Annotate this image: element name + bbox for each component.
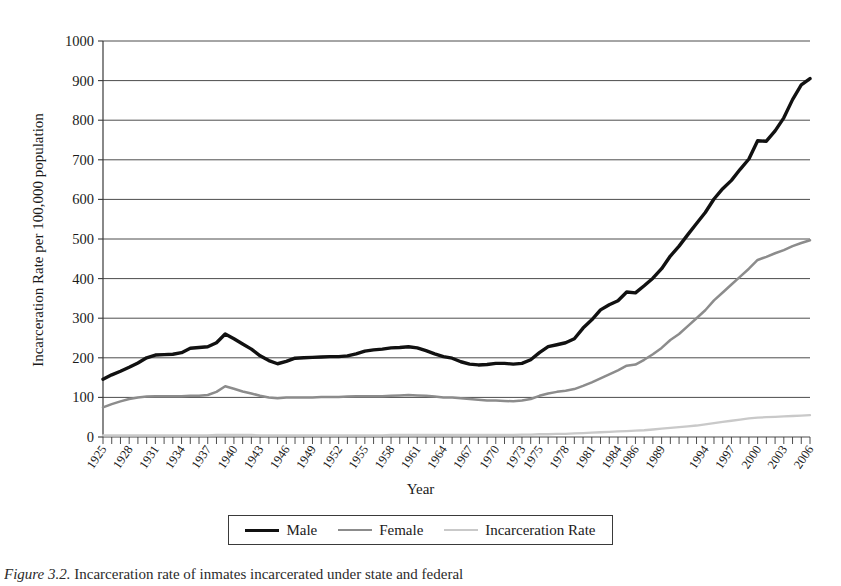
legend-swatch-female-icon bbox=[338, 529, 372, 531]
series-line-female bbox=[103, 240, 810, 407]
legend-item-female: Female bbox=[338, 522, 423, 539]
x-tick-label: 1940 bbox=[215, 443, 241, 472]
x-tick-label: 1931 bbox=[136, 443, 162, 472]
figure-caption-text: Incarceration rate of inmates incarcerat… bbox=[71, 566, 464, 582]
x-tick-label: 1952 bbox=[320, 443, 346, 472]
x-tick-label: 1981 bbox=[573, 443, 599, 472]
figure-caption-label: Figure 3.2. bbox=[4, 566, 71, 582]
x-tick-label: 1946 bbox=[267, 443, 293, 472]
x-tick-label: 1943 bbox=[241, 443, 267, 472]
legend-label-incarceration-rate: Incarceration Rate bbox=[485, 522, 595, 539]
legend-item-male: Male bbox=[245, 522, 317, 539]
x-tick-label: 1989 bbox=[643, 443, 669, 472]
x-tick-label: 2000 bbox=[739, 443, 765, 472]
legend-swatch-incarceration-rate-icon bbox=[444, 529, 478, 531]
x-tick-label: 1949 bbox=[293, 443, 319, 472]
x-tick-label: 1955 bbox=[346, 443, 372, 472]
series-line-male bbox=[103, 79, 810, 380]
series-line-incarceration-rate bbox=[103, 415, 810, 435]
y-tick-label: 400 bbox=[72, 271, 94, 287]
x-tick-label: 1964 bbox=[424, 442, 450, 471]
x-tick-label: 1994 bbox=[686, 442, 712, 471]
y-axis-label-wrap: Incarceration Rate per 100,000 populatio… bbox=[26, 40, 50, 440]
figure-root: 0100200300400500600700800900100019251928… bbox=[0, 0, 841, 586]
x-tick-label: 2006 bbox=[791, 443, 817, 472]
chart-area: 0100200300400500600700800900100019251928… bbox=[0, 0, 841, 500]
y-tick-label: 500 bbox=[72, 231, 94, 247]
x-tick-label: 1986 bbox=[616, 443, 642, 472]
x-tick-label: 1997 bbox=[712, 443, 738, 472]
y-tick-label: 100 bbox=[72, 389, 94, 405]
x-tick-label: 1937 bbox=[189, 443, 215, 472]
y-tick-label: 800 bbox=[72, 112, 94, 128]
x-tick-label: 1925 bbox=[84, 443, 110, 472]
x-tick-label: 1978 bbox=[547, 443, 573, 472]
legend-item-incarceration-rate: Incarceration Rate bbox=[444, 522, 595, 539]
legend-label-male: Male bbox=[286, 522, 317, 539]
y-tick-label: 1000 bbox=[65, 33, 94, 49]
legend-swatch-male-icon bbox=[245, 529, 279, 532]
x-tick-label: 1958 bbox=[372, 443, 398, 472]
x-tick-label: 1970 bbox=[477, 443, 503, 472]
chart-legend: Male Female Incarceration Rate bbox=[228, 515, 613, 545]
y-axis-label: Incarceration Rate per 100,000 populatio… bbox=[30, 113, 47, 367]
y-tick-label: 900 bbox=[72, 73, 94, 89]
y-tick-label: 600 bbox=[72, 191, 94, 207]
x-tick-label: 1961 bbox=[398, 443, 424, 472]
y-tick-label: 200 bbox=[72, 350, 94, 366]
y-tick-label: 300 bbox=[72, 310, 94, 326]
x-tick-label: 1928 bbox=[110, 443, 136, 472]
y-tick-label: 700 bbox=[72, 152, 94, 168]
x-tick-label: 2003 bbox=[765, 443, 791, 472]
x-tick-label: 1934 bbox=[162, 442, 188, 471]
y-tick-label: 0 bbox=[87, 429, 94, 445]
line-chart: 0100200300400500600700800900100019251928… bbox=[0, 0, 841, 500]
x-axis-label: Year bbox=[0, 481, 841, 498]
figure-caption: Figure 3.2. Incarceration rate of inmate… bbox=[4, 566, 837, 583]
x-tick-label: 1967 bbox=[450, 443, 476, 472]
x-tick-label: 1975 bbox=[520, 443, 546, 472]
legend-label-female: Female bbox=[379, 522, 423, 539]
